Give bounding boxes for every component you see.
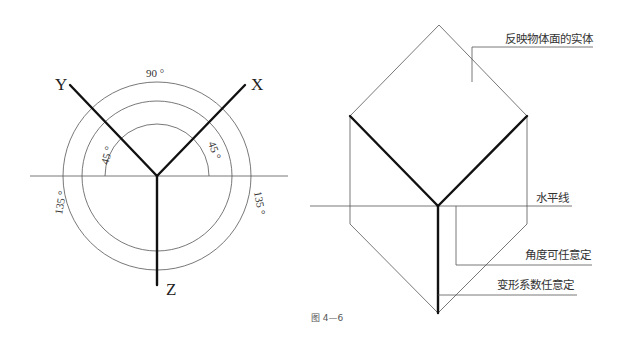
top-face-outline (350, 25, 527, 116)
angle-label-135-left: 135 ° (52, 190, 68, 215)
annotation-face: 反映物体面的实体 (505, 32, 594, 46)
y-axis-label: Y (55, 75, 67, 94)
angle-label-45-right: 45 ° (206, 140, 223, 161)
annotation-angle: 角度可任意定 (525, 248, 592, 262)
figure-caption: 图 4—6 (311, 313, 344, 323)
annotation-horizontal: 水平线 (536, 191, 570, 205)
z-axis-label: Z (166, 280, 176, 299)
leader-face (472, 47, 593, 82)
left-edge (350, 116, 438, 206)
angle-label-45-left: 45 ° (98, 145, 114, 166)
x-axis-label: X (251, 75, 263, 94)
inner-arc (105, 124, 209, 176)
angle-label-135-right: 135 ° (252, 190, 268, 215)
x-axis (157, 85, 245, 176)
right-edge (438, 116, 527, 206)
isometric-cube-figure: 反映物体面的实体 水平线 角度可任意定 变形系数任意定 图 4—6 (310, 25, 594, 323)
angle-label-90: 90 ° (146, 67, 164, 79)
axonometric-axes-figure: Y X Z 90 ° 45 ° 45 ° 135 ° 135 ° (30, 67, 288, 299)
diagram-canvas: Y X Z 90 ° 45 ° 45 ° 135 ° 135 ° 反映物体面的实… (0, 0, 626, 347)
annotation-coefficient: 变形系数任意定 (497, 278, 575, 292)
